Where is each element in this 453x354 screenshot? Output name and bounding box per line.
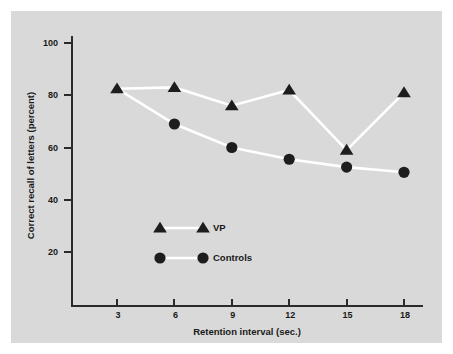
series-lines	[117, 87, 404, 172]
retention-chart: 20406080100 369121518 Retention interval…	[0, 0, 453, 354]
data-point-controls	[398, 167, 409, 178]
data-point-controls	[341, 161, 352, 172]
legend-controls-marker	[197, 252, 208, 263]
series-line-controls	[117, 89, 404, 173]
legend-marks	[153, 222, 210, 264]
data-point-controls	[169, 118, 180, 129]
data-layer	[0, 0, 453, 354]
data-point-controls	[226, 142, 237, 153]
legend-label-controls: Controls	[213, 252, 252, 263]
legend-controls-marker	[154, 252, 165, 263]
legend-label-vp: VP	[213, 222, 226, 233]
data-point-vp	[397, 86, 411, 97]
chart-page: 20406080100 369121518 Retention interval…	[0, 0, 453, 354]
data-point-vp	[282, 84, 296, 95]
series-line-vp	[117, 87, 404, 150]
data-point-controls	[284, 154, 295, 165]
